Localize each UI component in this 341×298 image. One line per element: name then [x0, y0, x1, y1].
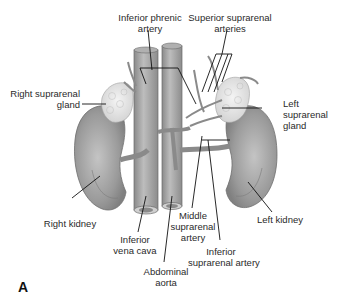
label-right-kidney: Right kidney	[40, 218, 100, 229]
label-line: gland	[283, 120, 339, 131]
label-line: suprarenal	[170, 221, 216, 232]
label-superior-suprarenal-arteries: Superior suprarenal arteries	[188, 12, 272, 34]
label-line: gland	[4, 99, 80, 110]
label-line: Inferior	[188, 246, 254, 257]
label-line: suprarenal	[283, 109, 339, 120]
anatomy-illustration	[0, 0, 341, 298]
label-line: Inferior	[110, 234, 160, 245]
label-line: Left kidney	[252, 214, 308, 225]
label-left-kidney: Left kidney	[252, 214, 308, 225]
label-middle-suprarenal-artery: Middle suprarenal artery	[170, 210, 216, 243]
panel-letter: A	[18, 280, 28, 294]
label-inferior-phrenic-artery: Inferior phrenic artery	[110, 12, 190, 34]
label-inferior-suprarenal-artery: Inferior suprarenal artery	[188, 246, 254, 268]
label-line: Inferior phrenic	[110, 12, 190, 23]
label-line: suprarenal artery	[188, 257, 254, 268]
inferior-vena-cava	[134, 47, 158, 214]
label-line: aorta	[138, 277, 194, 288]
label-line: arteries	[188, 23, 272, 34]
label-right-suprarenal-gland: Right suprarenal gland	[4, 88, 80, 110]
label-line: Left	[283, 98, 339, 109]
label-inferior-vena-cava: Inferior vena cava	[110, 234, 160, 256]
label-line: Middle	[170, 210, 216, 221]
right-suprarenal-gland	[101, 83, 133, 123]
label-left-suprarenal-gland: Left suprarenal gland	[283, 98, 339, 131]
label-line: Abdominal	[138, 266, 194, 277]
label-line: Right kidney	[40, 218, 100, 229]
label-line: vena cava	[110, 245, 160, 256]
label-line: artery	[170, 232, 216, 243]
label-line: Superior suprarenal	[188, 12, 272, 23]
label-line: Right suprarenal	[4, 88, 80, 99]
label-line: artery	[110, 23, 190, 34]
label-abdominal-aorta: Abdominal aorta	[138, 266, 194, 288]
